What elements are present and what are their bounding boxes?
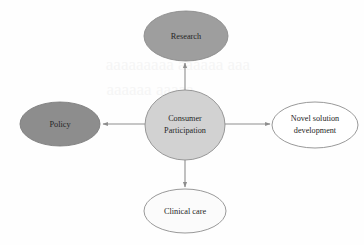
node-clinical-care[interactable]: Clinical care bbox=[144, 189, 226, 233]
node-policy[interactable]: Policy bbox=[20, 102, 100, 146]
diagram-svg: aaaaaaaaa aaaaaa aaa aaaaaa aaaaa Resear… bbox=[0, 0, 364, 245]
consumer-participation-label-line1: Consumer bbox=[168, 114, 202, 123]
consumer-participation-label-line2: Participation bbox=[164, 126, 206, 135]
node-novel-solution-development[interactable]: Novel solution development bbox=[272, 102, 358, 148]
clinical-care-label: Clinical care bbox=[164, 207, 206, 216]
novel-solution-label-line2: development bbox=[294, 126, 337, 135]
policy-label: Policy bbox=[49, 120, 71, 129]
diagram-canvas: aaaaaaaaa aaaaaa aaa aaaaaa aaaaa Resear… bbox=[0, 0, 364, 245]
node-research[interactable]: Research bbox=[144, 11, 228, 61]
novel-solution-label-line1: Novel solution bbox=[291, 114, 339, 123]
node-consumer-participation[interactable]: Consumer Participation bbox=[145, 90, 225, 160]
research-label: Research bbox=[171, 32, 202, 41]
